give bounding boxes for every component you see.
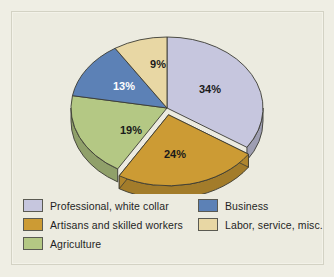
data-label-business: 13% — [113, 80, 135, 92]
legend-column-right: Business Labor, service, misc. — [198, 196, 323, 234]
legend-column-left: Professional, white collar Artisans and … — [23, 196, 183, 253]
legend-swatch-professional — [23, 199, 43, 212]
legend-item-agriculture[interactable]: Agriculture — [23, 234, 183, 253]
legend-item-professional[interactable]: Professional, white collar — [23, 196, 183, 215]
data-label-labor: 9% — [150, 58, 166, 70]
legend-swatch-artisans — [23, 218, 43, 231]
pie-chart-area: 34% 24% 19% 13% 9% — [12, 12, 323, 194]
legend-swatch-business — [198, 199, 218, 212]
chart-figure: 34% 24% 19% 13% 9% Professional, white c… — [11, 11, 324, 265]
legend-label-labor: Labor, service, misc. — [225, 219, 323, 231]
legend-label-agriculture: Agriculture — [50, 238, 101, 250]
legend-item-artisans[interactable]: Artisans and skilled workers — [23, 215, 183, 234]
legend-label-business: Business — [225, 200, 268, 212]
legend-item-labor[interactable]: Labor, service, misc. — [198, 215, 323, 234]
data-label-artisans: 24% — [164, 148, 186, 160]
data-label-agriculture: 19% — [120, 124, 142, 136]
legend-label-professional: Professional, white collar — [50, 200, 169, 212]
legend-swatch-labor — [198, 218, 218, 231]
data-label-professional: 34% — [199, 83, 221, 95]
legend-label-artisans: Artisans and skilled workers — [50, 219, 183, 231]
chart-legend: Professional, white collar Artisans and … — [20, 196, 323, 258]
legend-item-business[interactable]: Business — [198, 196, 323, 215]
pie-chart-svg: 34% 24% 19% 13% 9% — [12, 12, 323, 194]
legend-swatch-agriculture — [23, 237, 43, 250]
